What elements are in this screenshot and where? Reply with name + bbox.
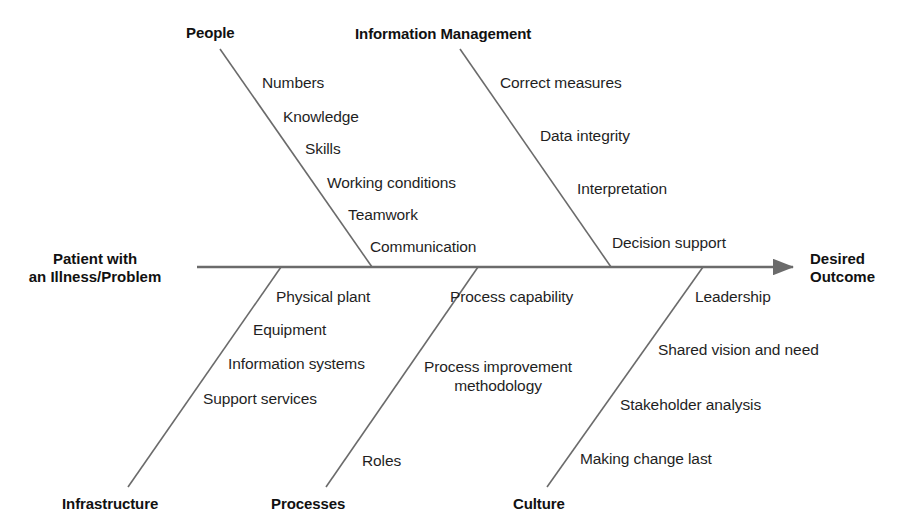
cause-people-3: Working conditions [327, 174, 456, 192]
cause-processes-2: Roles [362, 452, 401, 470]
category-label-culture: Culture [513, 495, 565, 513]
cause-people-4: Teamwork [348, 206, 418, 224]
cause-infrastructure-3: Support services [203, 390, 317, 408]
cause-people-0: Numbers [262, 74, 324, 92]
cause-information-management-2: Interpretation [577, 180, 667, 198]
category-label-infrastructure: Infrastructure [62, 495, 158, 513]
category-label-people: People [186, 24, 235, 42]
fishbone-diagram: Patient with an Illness/Problem Desired … [0, 0, 911, 529]
cause-infrastructure-1: Equipment [253, 321, 326, 339]
cause-information-management-0: Correct measures [500, 74, 622, 92]
cause-processes-0: Process capability [450, 288, 573, 306]
effect-label-left: Patient with an Illness/Problem [0, 250, 190, 286]
cause-people-2: Skills [305, 140, 341, 158]
effect-label-right: Desired Outcome [810, 250, 910, 286]
cause-processes-1: Process improvement methodology [424, 358, 572, 395]
bone-infrastructure [128, 267, 281, 487]
cause-people-1: Knowledge [283, 108, 359, 126]
cause-information-management-1: Data integrity [540, 127, 630, 145]
category-label-processes: Processes [271, 495, 345, 513]
cause-culture-1: Shared vision and need [658, 341, 819, 359]
cause-infrastructure-2: Information systems [228, 355, 365, 373]
category-label-information-management: Information Management [355, 25, 531, 43]
cause-culture-3: Making change last [580, 450, 712, 468]
cause-people-5: Communication [370, 238, 476, 256]
cause-culture-2: Stakeholder analysis [620, 396, 761, 414]
cause-culture-0: Leadership [695, 288, 771, 306]
cause-infrastructure-0: Physical plant [276, 288, 370, 306]
cause-information-management-3: Decision support [612, 234, 726, 252]
